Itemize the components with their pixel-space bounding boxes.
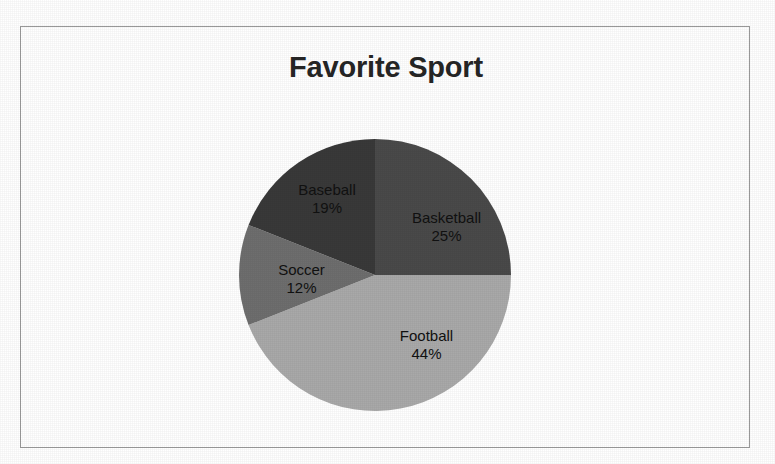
pie-slice-basketball[interactable]	[375, 139, 511, 275]
pie-svg	[239, 139, 511, 411]
chart-title: Favorite Sport	[21, 53, 751, 82]
chart-frame: Favorite Sport Baseball 19% Basketball 2…	[20, 26, 750, 448]
pie-chart: Baseball 19% Basketball 25% Soccer 12% F…	[239, 139, 511, 411]
